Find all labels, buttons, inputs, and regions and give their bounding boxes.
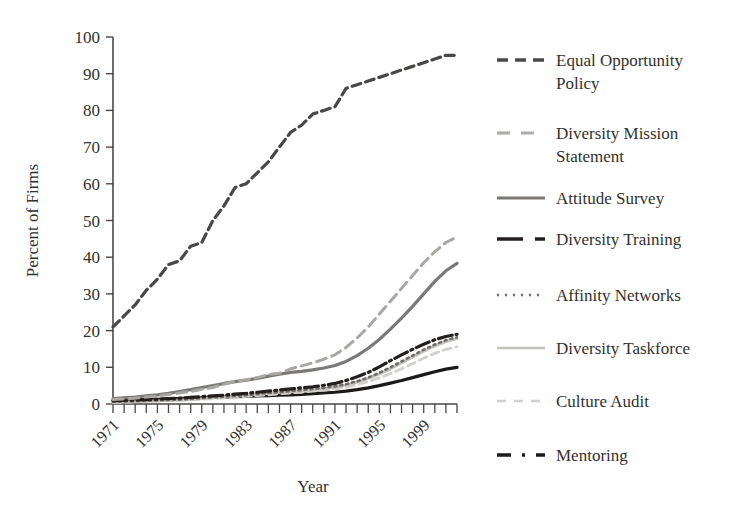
chart-figure-root: 1009080706050403020100 19711975197919831… [0,0,732,523]
y-tick-label: 30 [83,285,100,304]
legend-label: Mentoring [556,446,628,465]
legend-label: Affinity Networks [556,286,681,305]
legend-label: Diversity Taskforce [556,339,690,358]
legend-label: Diversity Mission [556,124,679,143]
y-tick-label: 0 [92,395,101,414]
legend-label-line2: Statement [556,147,624,166]
legend-label: Equal Opportunity [556,51,684,70]
line-chart-svg: 1009080706050403020100 19711975197919831… [0,0,732,523]
y-tick-label: 50 [83,212,100,231]
legend-label: Attitude Survey [556,189,665,208]
y-tick-label: 100 [75,28,101,47]
x-axis-title-text: Year [297,477,329,496]
legend-label-line2: Policy [556,74,600,93]
y-tick-label: 40 [83,248,100,267]
y-tick-label: 60 [83,175,100,194]
legend-label: Culture Audit [556,392,649,411]
y-axis-title-text: Percent of Firms [23,164,42,277]
x-axis-title: Year [297,477,329,496]
y-tick-label: 20 [83,322,100,341]
y-tick-label: 70 [83,138,100,157]
legend-label: Diversity Training [556,230,682,249]
y-tick-label: 90 [83,65,100,84]
y-tick-label: 80 [83,101,100,120]
y-tick-label: 10 [83,358,100,377]
y-axis-title: Percent of Firms [23,164,42,277]
